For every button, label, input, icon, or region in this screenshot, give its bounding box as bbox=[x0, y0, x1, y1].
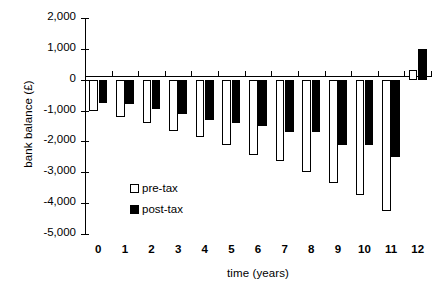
x-axis-tick bbox=[404, 71, 405, 77]
x-axis-tick-label: 1 bbox=[110, 243, 140, 255]
x-axis-tick bbox=[431, 71, 432, 77]
y-axis-tick: -5,000 bbox=[81, 234, 89, 235]
x-axis-tick-label: 12 bbox=[403, 243, 433, 255]
y-axis-tick: 0 bbox=[81, 80, 89, 81]
bar-pre-tax-year-0 bbox=[89, 80, 98, 111]
bar-post-tax-year-10 bbox=[365, 80, 374, 145]
bar-pre-tax-year-4 bbox=[196, 80, 205, 137]
y-axis-tick: -3,000 bbox=[81, 172, 89, 173]
x-axis-tick bbox=[138, 71, 139, 77]
y-axis-tick: 2,000 bbox=[81, 18, 89, 19]
bar-pre-tax-year-7 bbox=[276, 80, 285, 162]
open-square-icon bbox=[130, 184, 139, 193]
x-axis-tick bbox=[191, 71, 192, 77]
y-axis-tick-label: 0 bbox=[70, 72, 76, 84]
bar-pre-tax-year-2 bbox=[143, 80, 152, 123]
x-axis-tick bbox=[165, 71, 166, 77]
x-axis-tick-label: 10 bbox=[349, 243, 379, 255]
bar-post-tax-year-3 bbox=[178, 80, 187, 114]
bar-post-tax-year-0 bbox=[99, 80, 108, 103]
x-axis-tick-label: 4 bbox=[190, 243, 220, 255]
x-axis-tick-label: 6 bbox=[243, 243, 273, 255]
x-axis-zero-line bbox=[85, 76, 431, 77]
y-axis-title: bank balance (£) bbox=[22, 34, 34, 214]
x-axis-tick bbox=[218, 71, 219, 77]
y-axis-tick-label: 2,000 bbox=[47, 10, 76, 22]
x-axis-tick bbox=[351, 71, 352, 77]
x-axis-tick-label: 5 bbox=[216, 243, 246, 255]
bar-pre-tax-year-6 bbox=[249, 80, 258, 156]
x-axis-title: time (years) bbox=[85, 267, 431, 279]
bar-pre-tax-year-5 bbox=[222, 80, 231, 145]
bar-post-tax-year-6 bbox=[258, 80, 267, 126]
legend-item-label: pre-tax bbox=[142, 182, 178, 194]
bar-post-tax-year-5 bbox=[232, 80, 241, 123]
y-axis-tick: -1,000 bbox=[81, 111, 89, 112]
x-axis-tick bbox=[112, 71, 113, 77]
bar-pre-tax-year-3 bbox=[169, 80, 178, 131]
legend-item-label: post-tax bbox=[142, 203, 183, 215]
bar-post-tax-year-1 bbox=[125, 80, 134, 105]
legend-item-pre-tax: pre-tax bbox=[130, 182, 183, 194]
x-axis-tick bbox=[378, 71, 379, 77]
y-axis-tick-label: -2,000 bbox=[43, 133, 76, 145]
y-axis-tick-label: -5,000 bbox=[43, 226, 76, 238]
x-axis-tick bbox=[245, 71, 246, 77]
y-axis-line bbox=[85, 18, 86, 234]
y-axis-tick-label: -3,000 bbox=[43, 164, 76, 176]
x-axis-tick bbox=[271, 71, 272, 77]
bar-pre-tax-year-11 bbox=[382, 80, 391, 211]
legend-item-post-tax: post-tax bbox=[130, 203, 183, 215]
bar-post-tax-year-12 bbox=[418, 49, 427, 80]
bar-post-tax-year-8 bbox=[312, 80, 321, 132]
bar-post-tax-year-4 bbox=[205, 80, 214, 120]
y-axis-tick-label: 1,000 bbox=[47, 41, 76, 53]
bar-pre-tax-year-12 bbox=[409, 70, 418, 79]
x-axis-tick-label: 11 bbox=[376, 243, 406, 255]
x-axis-tick bbox=[325, 71, 326, 77]
x-axis-tick-label: 7 bbox=[270, 243, 300, 255]
x-axis-tick-label: 9 bbox=[323, 243, 353, 255]
bar-pre-tax-year-8 bbox=[302, 80, 311, 173]
bar-post-tax-year-2 bbox=[152, 80, 161, 109]
bar-post-tax-year-7 bbox=[285, 80, 294, 132]
x-axis-tick-label: 3 bbox=[163, 243, 193, 255]
filled-square-icon bbox=[130, 205, 139, 214]
bar-post-tax-year-9 bbox=[338, 80, 347, 145]
bar-pre-tax-year-9 bbox=[329, 80, 338, 183]
x-axis-tick bbox=[298, 71, 299, 77]
bar-pre-tax-year-1 bbox=[116, 80, 125, 117]
chart-legend: pre-taxpost-tax bbox=[130, 182, 183, 224]
y-axis-tick: -4,000 bbox=[81, 203, 89, 204]
x-axis-tick-label: 0 bbox=[83, 243, 113, 255]
y-axis-tick-label: -1,000 bbox=[43, 103, 76, 115]
bar-post-tax-year-11 bbox=[391, 80, 400, 157]
x-axis-tick-label: 8 bbox=[296, 243, 326, 255]
bar-pre-tax-year-10 bbox=[356, 80, 365, 196]
y-axis-tick: -2,000 bbox=[81, 141, 89, 142]
y-axis-tick-label: -4,000 bbox=[43, 195, 76, 207]
x-axis-tick-label: 2 bbox=[137, 243, 167, 255]
y-axis-tick: 1,000 bbox=[81, 49, 89, 50]
